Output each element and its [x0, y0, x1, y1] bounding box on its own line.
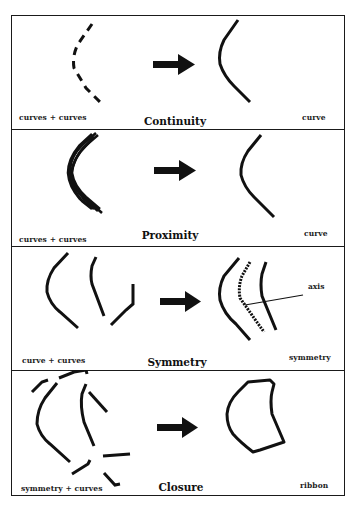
continuity-input-label: curves + curves [19, 113, 87, 122]
fragmented-curves [32, 370, 130, 485]
continuity-title: Continuity [115, 115, 235, 127]
symmetric-curves [220, 258, 277, 340]
panel-continuity: curves + curves Continuity curve [12, 16, 344, 129]
closure-drawing [12, 370, 346, 497]
axis-line [245, 295, 303, 305]
ribbon-shape [227, 380, 284, 452]
symmetry-output-label: symmetry [289, 353, 331, 362]
symmetry-title: Symmetry [117, 356, 237, 368]
input-curves [47, 253, 133, 328]
right-arrow-icon [154, 160, 196, 181]
closure-output-label: ribbon [300, 481, 328, 490]
panel-symmetry: axis curve + curves Symmetry symmetry [12, 246, 344, 370]
bundled-curves [68, 133, 102, 213]
axis-label: axis [308, 282, 324, 291]
proximity-title: Proximity [110, 229, 230, 241]
right-arrow-icon [160, 291, 201, 312]
closure-title: Closure [121, 481, 241, 493]
symmetry-input-label: curve + curves [22, 356, 85, 365]
proximity-input-label: curves + curves [19, 235, 87, 244]
continuity-output-label: curve [302, 113, 326, 122]
symmetry-drawing [12, 246, 346, 370]
panel-proximity: curves + curves Proximity curve [12, 129, 344, 246]
proximity-output-label: curve [304, 229, 328, 238]
right-arrow-icon [157, 417, 198, 438]
figure-frame: curves + curves Continuity curve curves … [11, 15, 345, 496]
proximity-curve [241, 135, 274, 217]
dashed-curve [74, 24, 105, 106]
right-arrow-icon [153, 54, 195, 75]
panel-closure: symmetry + curves Closure ribbon [12, 370, 344, 497]
continuous-curve [220, 20, 251, 102]
closure-input-label: symmetry + curves [21, 484, 103, 493]
